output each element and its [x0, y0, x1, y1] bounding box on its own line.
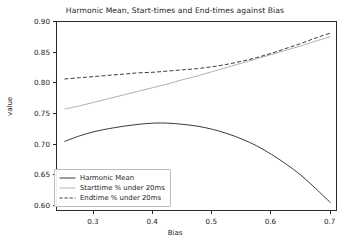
y-tick-label: 0.90: [18, 17, 50, 26]
legend-label: Harmonic Mean: [80, 173, 134, 183]
x-tick-label: 0.6: [253, 217, 287, 226]
chart-title: Harmonic Mean, Start-times and End-times…: [0, 6, 350, 15]
series-line: [64, 33, 330, 79]
x-tick-label: 0.3: [76, 217, 110, 226]
chart-figure: Harmonic Mean, Start-times and End-times…: [0, 0, 350, 247]
y-tick-label: 0.85: [18, 47, 50, 56]
legend-item: Endtime % under 20ms: [59, 193, 165, 203]
legend-line-swatch: [59, 174, 76, 182]
y-tick-label: 0.75: [18, 108, 50, 117]
x-tick-label: 0.4: [135, 217, 169, 226]
y-tick-label: 0.60: [18, 200, 50, 209]
x-tick-label: 0.7: [313, 217, 347, 226]
y-tick-label: 0.70: [18, 139, 50, 148]
legend-label: Endtime % under 20ms: [80, 193, 161, 203]
y-tick-label: 0.80: [18, 78, 50, 87]
legend-line-swatch: [59, 194, 76, 202]
legend-line-swatch: [59, 184, 76, 192]
chart-legend: Harmonic MeanStarttime % under 20msEndti…: [54, 169, 171, 207]
y-axis-label: value: [6, 97, 14, 116]
x-tick-label: 0.5: [194, 217, 228, 226]
y-tick-label: 0.65: [18, 170, 50, 179]
legend-item: Harmonic Mean: [59, 173, 165, 183]
legend-item: Starttime % under 20ms: [59, 183, 165, 193]
legend-label: Starttime % under 20ms: [80, 183, 165, 193]
series-line: [64, 37, 330, 109]
x-axis-label: Bias: [0, 229, 350, 237]
